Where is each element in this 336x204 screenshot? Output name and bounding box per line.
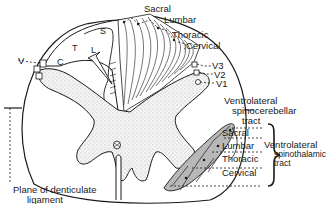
label-v1: V1 xyxy=(216,79,228,89)
label-inner-t: T xyxy=(72,43,78,53)
label-inner-c: C xyxy=(57,57,64,67)
label-top-cervical: Cervical xyxy=(186,41,220,51)
cord-cross-section-drawing xyxy=(0,0,336,204)
label-spinothalamic-line3: tract xyxy=(274,159,291,168)
label-seg-thoracic: Thoracic xyxy=(222,154,258,164)
label-seg-cervical: Cervical xyxy=(222,168,256,178)
label-top-thoracic: Thoracic xyxy=(172,30,208,40)
label-v-left: V xyxy=(18,56,24,66)
label-seg-lumbar: Lumbar xyxy=(222,141,254,151)
label-top-lumbar: Lumbar xyxy=(164,15,196,25)
label-top-sacral: Sacral xyxy=(144,4,171,14)
label-inner-s: S xyxy=(100,26,106,36)
label-spinocerebellar-line3: tract xyxy=(242,116,260,126)
label-plane-line2: ligament xyxy=(27,195,63,204)
label-inner-l: L xyxy=(91,45,96,55)
spinal-cord-diagram: Sacral Lumbar Thoracic Cervical S L T C … xyxy=(0,0,336,204)
label-seg-sacral: Sacral xyxy=(222,128,249,138)
